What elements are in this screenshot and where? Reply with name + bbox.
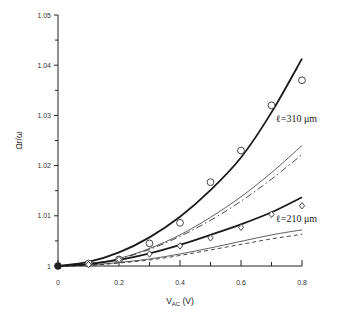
chart: 11.011.021.031.041.0500.20.40.60.8 ℓ=310… (0, 0, 343, 315)
diamond-marker (147, 251, 152, 257)
series-layer (58, 59, 302, 266)
y-tick-label: 1.05 (37, 12, 51, 19)
circle-marker (238, 147, 245, 154)
x-tick-label: 0.6 (236, 279, 246, 286)
diamond-marker (299, 203, 304, 209)
annotation-310um: ℓ=310 μm (276, 113, 317, 124)
x-tick-label: 0 (56, 279, 60, 286)
x-tick-label: 0.4 (175, 279, 185, 286)
circle-marker (207, 179, 214, 186)
x-tick-label: 0.8 (297, 279, 307, 286)
x-tick-label: 0.2 (114, 279, 124, 286)
axes: 11.011.021.031.041.0500.20.40.60.8 (37, 12, 307, 287)
y-tick-label: 1.03 (37, 112, 51, 119)
y-tick-label: 1.01 (37, 212, 51, 219)
markers-layer (55, 77, 306, 270)
y-tick-label: 1.04 (37, 62, 51, 69)
origin-marker (55, 263, 61, 269)
annotation-210um: ℓ=210 μm (276, 213, 317, 224)
circle-marker (268, 102, 275, 109)
x-axis-label: VAC (V) (166, 296, 194, 307)
y-axis-label: Ωr/ω (14, 131, 24, 150)
circle-marker (299, 77, 306, 84)
y-tick-label: 1.02 (37, 162, 51, 169)
circle-marker (146, 240, 153, 247)
y-tick-label: 1 (47, 263, 51, 270)
circle-marker (177, 219, 184, 226)
